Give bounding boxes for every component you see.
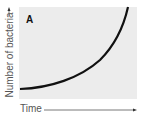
x-axis-arrowhead bbox=[133, 109, 137, 112]
y-axis-arrowhead bbox=[8, 7, 11, 11]
panel-label: A bbox=[26, 14, 33, 25]
y-axis-label: Number of bacteria bbox=[4, 12, 15, 97]
growth-curve bbox=[20, 7, 128, 89]
chart-overlay bbox=[0, 0, 149, 119]
x-axis-label: Time bbox=[20, 103, 42, 114]
